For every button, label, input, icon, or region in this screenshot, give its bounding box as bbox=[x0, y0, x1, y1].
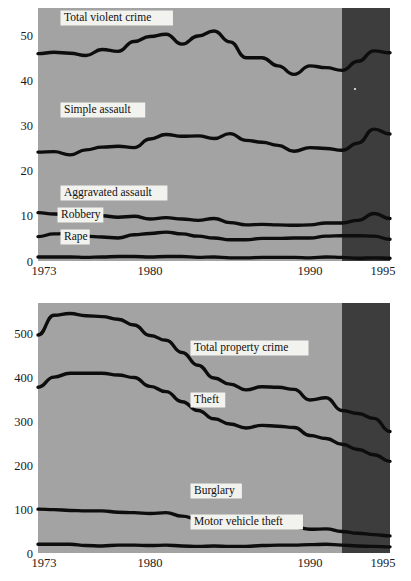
label-text: Theft bbox=[194, 393, 220, 405]
x-tick-label: 1995 bbox=[371, 264, 396, 278]
x-tick-label: 1973 bbox=[32, 556, 57, 570]
x-tick-label: 1995 bbox=[371, 556, 396, 570]
label-rape: Rape bbox=[61, 230, 90, 245]
y-tick-label: 300 bbox=[14, 415, 33, 429]
y-tick-label: 20 bbox=[21, 164, 34, 178]
label-text: Robbery bbox=[61, 208, 101, 221]
label-burglary: Burglary bbox=[191, 484, 242, 499]
label-total-property-crime: Total property crime bbox=[191, 341, 309, 356]
label-text: Motor vehicle theft bbox=[194, 515, 284, 527]
x-tick-label: 1973 bbox=[32, 264, 57, 278]
label-text: Total property crime bbox=[194, 341, 288, 354]
violent-crime-chart: 01020304050 1973198019901995 Total viole… bbox=[0, 0, 411, 290]
y-tick-label: 500 bbox=[14, 327, 33, 341]
x-axis-tick-labels: 1973198019901995 bbox=[32, 264, 396, 278]
y-tick-label: 10 bbox=[21, 209, 34, 223]
label-text: Burglary bbox=[194, 484, 235, 497]
label-aggravated-assault: Aggravated assault bbox=[61, 186, 168, 201]
y-tick-label: 30 bbox=[21, 119, 34, 133]
label-text: Simple assault bbox=[64, 103, 132, 116]
x-tick-label: 1980 bbox=[138, 264, 163, 278]
y-tick-label: 100 bbox=[14, 503, 33, 517]
x-tick-label: 1990 bbox=[298, 264, 323, 278]
property-crime-panel: 0100200300400500 1973198019901995 Total … bbox=[0, 290, 411, 581]
label-theft: Theft bbox=[191, 393, 226, 408]
y-axis-tick-labels: 0100200300400500 bbox=[14, 327, 33, 560]
label-text: Total violent crime bbox=[64, 11, 151, 23]
x-tick-label: 1980 bbox=[138, 556, 163, 570]
y-tick-label: 400 bbox=[14, 371, 33, 385]
label-text: Aggravated assault bbox=[64, 186, 153, 199]
x-tick-label: 1990 bbox=[298, 556, 323, 570]
label-simple-assault: Simple assault bbox=[61, 103, 146, 118]
label-motor-vehicle-theft: Motor vehicle theft bbox=[191, 515, 303, 530]
y-axis-tick-labels: 01020304050 bbox=[21, 29, 34, 269]
series-line bbox=[38, 544, 390, 547]
property-crime-chart: 0100200300400500 1973198019901995 Total … bbox=[0, 290, 411, 581]
x-axis-tick-labels: 1973198019901995 bbox=[32, 556, 396, 570]
y-tick-label: 40 bbox=[21, 74, 34, 88]
y-tick-label: 200 bbox=[14, 459, 33, 473]
label-text: Rape bbox=[64, 230, 88, 243]
y-tick-label: 50 bbox=[21, 29, 34, 43]
series-line bbox=[38, 256, 390, 258]
image-speck bbox=[354, 88, 356, 90]
label-robbery: Robbery bbox=[58, 208, 104, 223]
label-total-violent-crime: Total violent crime bbox=[61, 11, 173, 26]
violent-crime-panel: 01020304050 1973198019901995 Total viole… bbox=[0, 0, 411, 290]
